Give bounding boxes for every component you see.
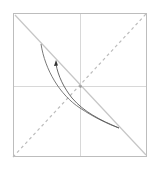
center-point	[79, 85, 82, 88]
dashed-diagonal	[13, 14, 146, 157]
diagram-svg	[0, 0, 152, 172]
phase-diagram	[0, 0, 152, 172]
